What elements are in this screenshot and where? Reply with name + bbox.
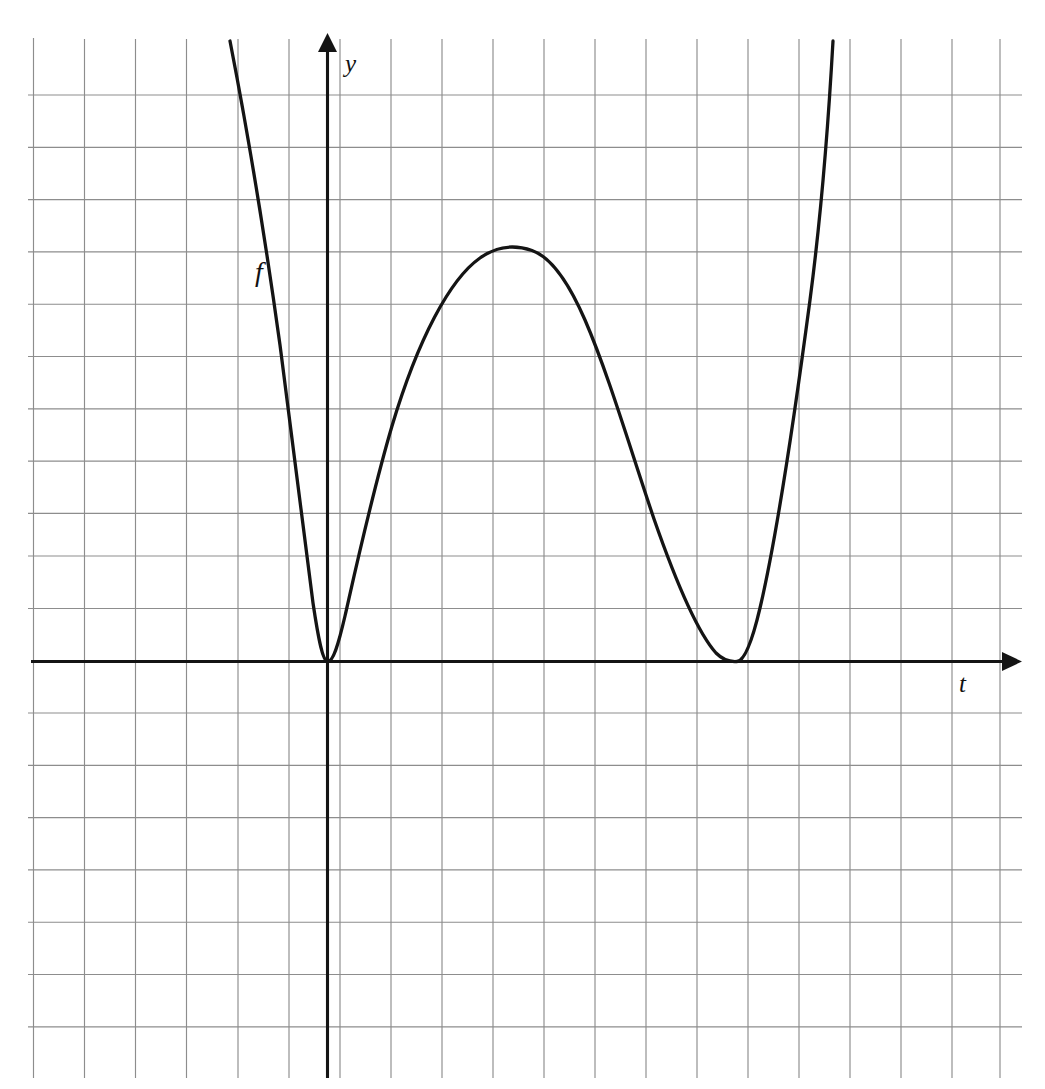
page-root: Exercise 2 <box>0 0 1045 1089</box>
figure-background <box>0 0 1045 1089</box>
graph-figure: y t f <box>0 0 1045 1089</box>
x-axis-label: t <box>959 670 967 697</box>
coordinate-plane-graph: y t f <box>0 0 1045 1089</box>
y-axis-label: y <box>342 50 357 77</box>
